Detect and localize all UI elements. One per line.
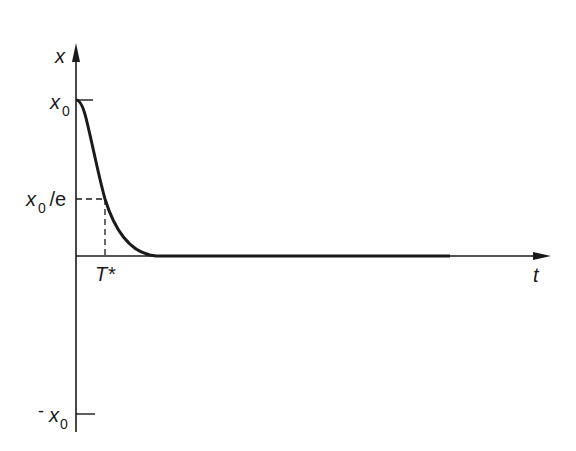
svg-text:-: - — [38, 401, 44, 421]
svg-text:0: 0 — [60, 416, 68, 432]
svg-text:x: x — [25, 188, 37, 210]
neg-x0-label: - x 0 — [38, 401, 68, 432]
x0-label: x 0 — [49, 91, 70, 119]
t-axis-label: t — [533, 264, 540, 286]
t-star-label: T* — [95, 263, 116, 285]
svg-text:x: x — [48, 404, 60, 426]
svg-text:x: x — [49, 91, 61, 113]
decay-diagram: x t x 0 x 0 /e - x 0 T* — [0, 0, 576, 451]
decay-curve — [76, 100, 450, 256]
x0-over-e-label: x 0 /e — [25, 188, 66, 216]
y-axis-arrow-icon — [72, 43, 80, 62]
svg-text:/e: /e — [44, 188, 66, 210]
t-axis-arrow-icon — [533, 252, 551, 260]
svg-text:0: 0 — [62, 103, 70, 119]
y-axis-label: x — [54, 45, 66, 67]
